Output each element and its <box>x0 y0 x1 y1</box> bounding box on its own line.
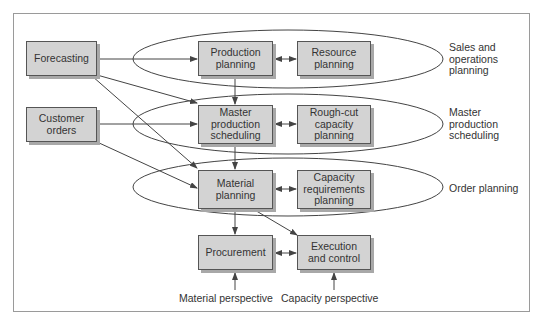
box-procurement: Procurement <box>198 235 273 270</box>
box-capacity-requirements-planning: Capacity requirements planning <box>297 170 371 209</box>
box-execution-and-control: Execution and control <box>297 235 371 270</box>
arrow-forecasting-to-material-planning <box>92 76 197 168</box>
arrow-customer-orders-to-material-planning <box>97 142 197 188</box>
box-resource-planning: Resource planning <box>297 41 371 76</box>
box-production-planning: Production planning <box>198 41 273 76</box>
box-forecasting: Forecasting <box>26 41 97 76</box>
level-label-master-production-scheduling: Master production scheduling <box>449 107 499 142</box>
perspective-label-capacity: Capacity perspective <box>281 293 378 305</box>
arrow-forecasting-to-mps <box>97 75 197 103</box>
box-rough-cut-capacity-planning: Rough-cut capacity planning <box>297 105 371 144</box>
box-customer-orders: Customer orders <box>26 107 97 142</box>
ellipse-order-planning <box>133 158 443 216</box>
level-label-order-planning: Order planning <box>449 183 518 195</box>
box-master-production-scheduling: Master production scheduling <box>198 105 273 144</box>
perspective-label-material: Material perspective <box>179 293 273 305</box>
box-material-planning: Material planning <box>198 170 273 209</box>
arrow-material-planning-to-execution <box>253 209 297 235</box>
planning-hierarchy-diagram: Forecasting Customer orders Production p… <box>0 0 544 327</box>
level-label-sales-operations-planning: Sales and operations planning <box>449 42 498 77</box>
